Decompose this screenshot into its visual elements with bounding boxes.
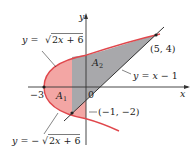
tick-neg3-label: −3 (30, 89, 44, 100)
point-5-4 (154, 33, 157, 36)
lower-curve-radicand: 2x + 6 (49, 135, 80, 146)
point-neg1-neg2 (70, 111, 73, 114)
leader-upper-curve (42, 51, 56, 67)
leader-lower-curve (44, 113, 58, 134)
origin-label: 0 (88, 89, 94, 100)
y-axis-arrow-icon (84, 13, 88, 19)
line-label: y = x − 1 (132, 70, 178, 81)
sqrt-icon: √ (45, 34, 52, 45)
lower-curve-label-prefix: y = − (11, 135, 39, 146)
point-5-4-label: (5, 4) (150, 43, 176, 54)
upper-curve-radicand: 2x + 6 (52, 34, 83, 45)
x-axis-label: x (180, 88, 186, 99)
y-axis-label: y (78, 11, 85, 22)
area-between-curves-diagram: y x 0 −3 y = √ 2x + 6 y = − √ 2x + 6 y =… (0, 0, 194, 157)
sqrt-icon: √ (42, 135, 49, 146)
leader-line (122, 70, 131, 74)
point-neg1-neg2-label: (−1, −2) (98, 106, 139, 117)
upper-curve-label-prefix: y = (21, 34, 38, 45)
